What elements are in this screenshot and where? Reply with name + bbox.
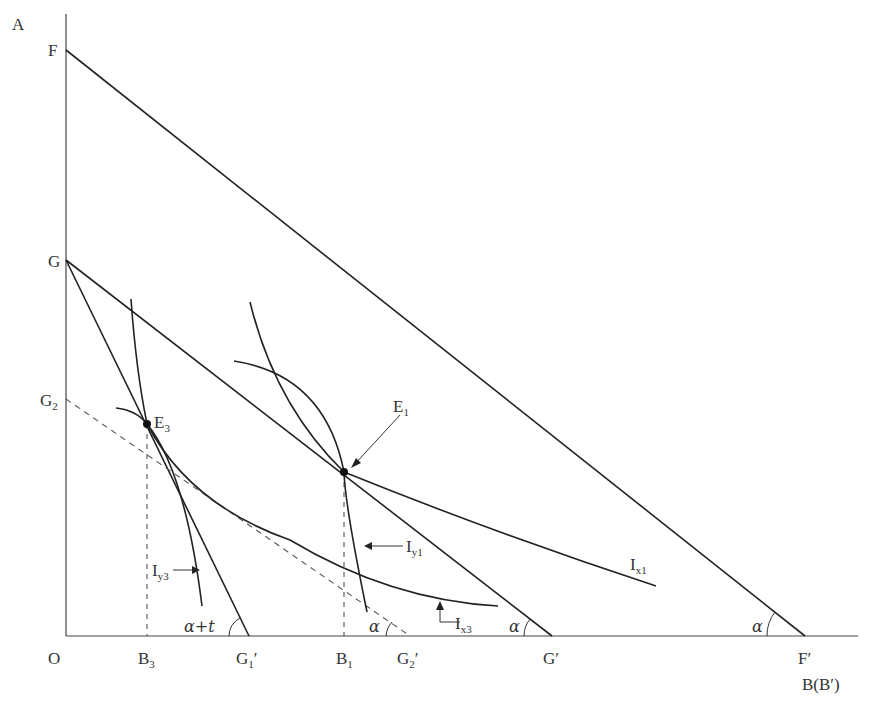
equilibrium-point-E1 [340, 468, 348, 476]
y-axis-label: A [12, 15, 25, 34]
arrow-E1 [354, 415, 400, 465]
point-label-B3: B3 [138, 649, 155, 670]
point-label-G2-prime: G2′ [397, 649, 419, 670]
angle-label-alpha-F: α [752, 617, 763, 636]
curve-label-Iy3: Iy3 [152, 561, 169, 582]
equilibrium-label-E3: E3 [154, 413, 170, 434]
arrow-head-Ix3 [436, 601, 444, 610]
curve-label-Ix1: Ix1 [630, 555, 647, 576]
point-label-F-prime: F′ [798, 649, 811, 668]
trade-diagram: A B(B′) O F G G2 B3 G1′ B1 G2′ G′ F′ E3 … [0, 0, 875, 712]
angle-label-alpha-G: α [509, 617, 520, 636]
point-label-F: F [48, 41, 57, 60]
curve-Ix3 [116, 408, 498, 606]
arrow-head-Iy1 [364, 542, 372, 550]
line-G2G2-prime-dashed [66, 399, 410, 636]
curve-label-Ix3: Ix3 [455, 614, 472, 635]
curve-Iy3 [131, 299, 202, 606]
point-label-G1-prime: G1′ [236, 649, 258, 670]
angle-label-alpha-G2: α [369, 617, 380, 636]
origin-label: O [48, 649, 60, 668]
angle-arc-alpha-plus-t [229, 618, 240, 636]
x-axis-label: B(B′) [802, 675, 840, 694]
angle-arc-alpha-F [767, 612, 775, 636]
curve-Iy1 [234, 361, 367, 612]
line-FF-prime [66, 50, 805, 636]
point-label-G2: G2 [40, 391, 58, 412]
angle-arc-alpha-G2 [386, 622, 392, 636]
line-GG-prime [66, 260, 552, 636]
point-label-G: G [48, 252, 60, 271]
point-label-G-prime: G′ [543, 649, 559, 668]
angle-label-alpha-plus-t: α+t [184, 617, 215, 636]
curve-label-Iy1: Iy1 [406, 537, 423, 558]
equilibrium-label-E1: E1 [393, 397, 409, 418]
angle-arc-alpha-G [524, 619, 530, 636]
curve-Ix1 [250, 302, 656, 586]
equilibrium-point-E3 [143, 420, 151, 428]
point-label-B1: B1 [336, 649, 353, 670]
